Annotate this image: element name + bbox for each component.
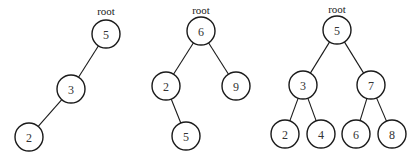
node-value: 3 xyxy=(300,79,306,93)
tree-node: 2 xyxy=(15,123,43,151)
node-value: 7 xyxy=(368,79,374,93)
tree-edge xyxy=(377,98,387,121)
tree-node: 5 xyxy=(172,122,200,150)
tree-node: 9 xyxy=(222,72,250,100)
nodes-layer: 53262955372468 xyxy=(15,16,406,151)
node-value: 5 xyxy=(334,24,340,38)
tree-edge xyxy=(310,42,329,73)
root-label: root xyxy=(192,4,210,16)
node-value: 5 xyxy=(183,130,189,144)
tree-edge xyxy=(308,98,316,121)
tree-node: 7 xyxy=(357,71,385,99)
tree-edge xyxy=(79,46,99,77)
tree-edge xyxy=(344,42,363,73)
tree-node: 3 xyxy=(289,71,317,99)
tree-node: 2 xyxy=(271,120,299,148)
node-value: 3 xyxy=(68,83,74,97)
tree-edge xyxy=(38,100,62,127)
tree-edge xyxy=(209,43,229,74)
node-value: 4 xyxy=(318,128,324,142)
tree-node: 4 xyxy=(307,120,335,148)
tree-edge xyxy=(174,43,194,74)
node-value: 8 xyxy=(389,128,395,142)
tree-node: 6 xyxy=(187,17,215,45)
node-value: 6 xyxy=(353,128,359,142)
node-value: 6 xyxy=(198,25,204,39)
node-value: 5 xyxy=(103,28,109,42)
root-labels-layer: rootrootroot xyxy=(97,3,346,17)
root-label: root xyxy=(97,5,115,17)
edges-layer xyxy=(38,42,386,127)
tree-edge xyxy=(171,99,181,123)
tree-node: 5 xyxy=(323,16,351,44)
tree-edge xyxy=(360,98,367,120)
node-value: 2 xyxy=(282,128,288,142)
root-label: root xyxy=(328,3,346,15)
tree-edge xyxy=(290,98,298,121)
tree-node: 3 xyxy=(57,75,85,103)
tree-node: 8 xyxy=(378,120,406,148)
tree-node: 5 xyxy=(92,20,120,48)
node-value: 9 xyxy=(233,80,239,94)
tree-node: 6 xyxy=(342,120,370,148)
node-value: 2 xyxy=(26,131,32,145)
binary-trees-diagram: 53262955372468 rootrootroot xyxy=(0,0,417,163)
tree-node: 2 xyxy=(152,72,180,100)
node-value: 2 xyxy=(163,80,169,94)
